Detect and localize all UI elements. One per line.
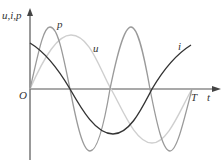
x-axis-arrow-icon	[212, 86, 221, 92]
curve-i-label: i	[178, 40, 181, 52]
y-axis-label: u,i,p	[2, 9, 22, 21]
y-axis-arrow-icon	[27, 8, 33, 16]
curve-u-label: u	[93, 42, 99, 54]
period-label: T	[191, 91, 198, 103]
x-axis-label: t	[207, 91, 211, 103]
origin-label: O	[19, 89, 27, 101]
curve-p-label: p	[56, 18, 63, 30]
phase-diagram: u,i,p O T t p u i	[0, 0, 223, 168]
